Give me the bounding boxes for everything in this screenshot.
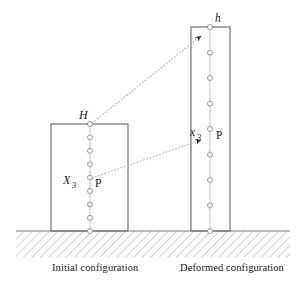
ground-hatching	[16, 231, 290, 257]
initial-coordinate-subscript: 3	[71, 180, 76, 190]
initial-point-p-label: P	[95, 177, 101, 189]
mapping-arrows	[92, 36, 201, 178]
deformation-configuration-diagram: H h X 3 P x 3 P Initial configuration De…	[0, 0, 306, 285]
height-mapping-arrow	[92, 36, 201, 123]
initial-material-markers	[88, 122, 93, 234]
initial-configuration-caption: Initial configuration	[52, 262, 138, 273]
diagram-canvas: H h X 3 P x 3 P	[0, 0, 306, 285]
deformed-height-label: h	[215, 12, 221, 24]
initial-coordinate-label: X	[62, 173, 71, 187]
deformed-configuration-block	[191, 25, 230, 234]
deformed-coordinate-label: x	[189, 126, 196, 138]
initial-height-label: H	[78, 108, 89, 122]
deformed-coordinate-subscript: 3	[196, 132, 201, 142]
point-mapping-arrow	[92, 140, 201, 178]
deformed-configuration-caption: Deformed configuration	[180, 262, 284, 273]
deformed-point-p-label: P	[216, 129, 222, 141]
